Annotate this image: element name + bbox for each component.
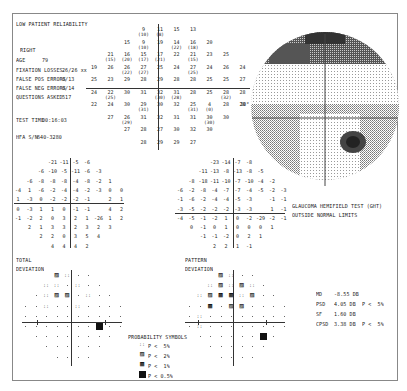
deviation-value: -2 [209,207,221,212]
deviation-value: 2 [35,216,47,221]
threshold-measured: 28 [140,139,146,145]
deviation-value: -8 [197,188,209,193]
deviation-value: 0 [209,225,221,230]
deviation-value: 1 [24,188,36,193]
normal-point-icon [273,295,274,296]
normal-point-icon [36,316,37,317]
normal-point-icon [231,357,232,358]
threshold-measured: 31 [140,114,146,120]
normal-point-icon [189,326,190,327]
total-deviation-label-1: TOTAL [16,256,32,263]
threshold-value: 4(0) [204,102,216,112]
threshold-measured: 25 [206,76,212,82]
normal-point-icon [109,306,110,307]
normal-point-icon [189,316,190,317]
normal-point-icon [242,316,243,317]
deviation-value: -1 [243,244,255,249]
threshold-measured: 28 [190,76,196,82]
threshold-measured: 16 [190,39,196,45]
normal-point-icon [88,326,89,327]
false-neg-value: 0/14 [62,84,74,91]
normal-point-icon [242,357,243,358]
p-2-symbol-icon: ▨ [64,292,70,298]
pattern-prob-tick [266,320,267,325]
threshold-value: 25 [204,77,216,82]
deviation-value: 1 [81,216,93,221]
deviation-value: 1 [266,225,278,230]
threshold-measured: 25 [206,89,212,95]
deviation-value: -2 [186,188,198,193]
threshold-measured: 9 [142,39,145,45]
normal-point-icon [78,295,79,296]
normal-point-icon [46,336,47,337]
normal-point-icon [273,316,274,317]
deviation-value: -5 [186,216,198,221]
threshold-measured: 20 [206,39,212,45]
normal-point-icon [78,275,79,276]
threshold-measured: 25 [91,76,97,82]
normal-point-icon [263,326,264,327]
threshold-measured: 32 [157,89,163,95]
deviation-value: -1 [174,197,186,202]
threshold-value: 27(27) [138,65,150,75]
normal-point-icon [252,357,253,358]
deviation-value: 2 [24,225,36,230]
deviation-value: 1 [35,207,47,212]
deviation-value: -1 [278,197,290,202]
deviation-value: -2 [58,197,70,202]
threshold-value: 30 [220,115,232,120]
normal-point-icon [189,306,190,307]
p-2-symbol-icon: ▨ [228,303,234,309]
threshold-value: 26(29) [121,115,133,125]
false-pos-label: FALSE POS ERRORS [16,75,66,82]
index-value: 1.60 DB [334,310,356,317]
deviation-value: -29 [255,216,267,221]
threshold-value: 15 [121,40,133,45]
deviation-value: -4 [58,188,70,193]
threshold-measured: 28 [239,89,245,95]
deviation-value: -2 [70,197,82,202]
threshold-repeat: (21) [154,57,166,62]
deviation-value: -3 [243,197,255,202]
normal-point-icon [78,357,79,358]
normal-point-icon [78,316,79,317]
threshold-value: 19 [154,40,166,45]
deviation-value: -11 [209,179,221,184]
threshold-repeat: (22) [171,45,183,50]
p-05-symbol-icon [260,333,267,340]
deviation-value: -2 [24,216,36,221]
deviation-value: 2 [81,244,93,249]
deviation-value: 2 [209,244,221,249]
deviation-value: 4 [58,244,70,249]
deviation-value: -10 [220,179,232,184]
threshold-value: 27 [237,77,249,82]
threshold-measured: 25 [223,76,229,82]
index-name: SF [316,310,322,317]
threshold-value: 31 [171,115,183,120]
normal-point-icon [25,316,26,317]
normal-point-icon [109,295,110,296]
threshold-value: 27(25) [187,65,199,75]
normal-point-icon [46,326,47,327]
deviation-value: 0 [232,225,244,230]
normal-point-icon [231,336,232,337]
threshold-measured: 29 [157,76,163,82]
deviation-value: -3 [24,197,36,202]
pattern-dev-horizontal-axis [175,213,285,214]
index-p-value: P < 5% [362,320,384,327]
deviation-value: 5 [81,234,93,239]
threshold-value: 16(20) [121,52,133,62]
normal-point-icon [273,326,274,327]
normal-point-icon [88,275,89,276]
threshold-value: 14(22) [171,40,183,50]
deviation-value: -1 [278,207,290,212]
threshold-value: 16(18) [187,40,199,50]
threshold-measured: 29 [124,76,130,82]
normal-point-icon [242,346,243,347]
normal-point-icon [99,306,100,307]
deviation-value: -6 [174,188,186,193]
deviation-value: 1 [47,207,59,212]
threshold-value: 21(15) [187,52,199,62]
threshold-value: 25 [220,52,232,57]
threshold-measured: 23 [107,76,113,82]
